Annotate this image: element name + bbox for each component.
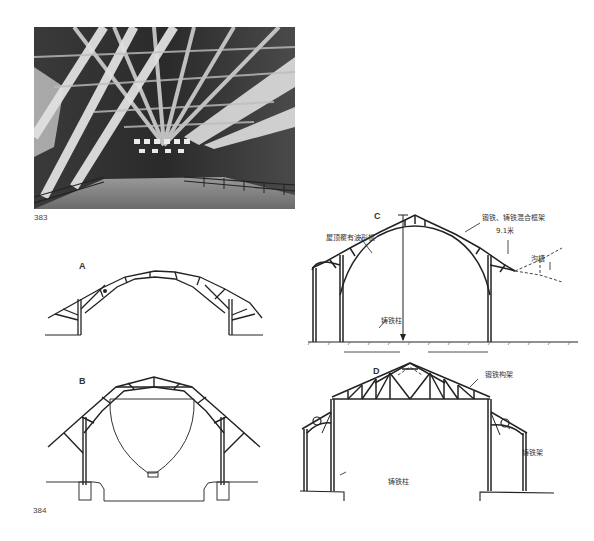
label-hybrid-iron-frame: 锻铁、铸铁混合框架	[482, 212, 545, 222]
label-cast-iron-bracket: 铸铁架	[522, 447, 543, 457]
drawing-figure-number: 384	[33, 506, 46, 515]
label-cast-iron-column-c: 铸铁柱	[381, 315, 402, 325]
label-span-9-1m: 9.1米	[496, 225, 514, 235]
label-gutter: 沟槽	[531, 253, 545, 263]
label-corrugated-roof: 屋顶覆有波形板	[326, 232, 375, 242]
drawing-d-wrought-iron-truss	[310, 355, 580, 505]
drawing-b-dock-shed-truss	[44, 375, 264, 510]
photo-figure-number: 383	[34, 213, 47, 222]
drawing-c-hybrid-iron-frame	[300, 210, 590, 350]
drawing-a-timber-arch-truss	[45, 263, 265, 341]
shed-interior-photo	[34, 27, 295, 209]
label-cast-iron-column-d: 铸铁柱	[388, 476, 409, 486]
label-wrought-iron-truss: 锻铁构架	[485, 369, 513, 379]
photo-illustration	[34, 27, 295, 209]
